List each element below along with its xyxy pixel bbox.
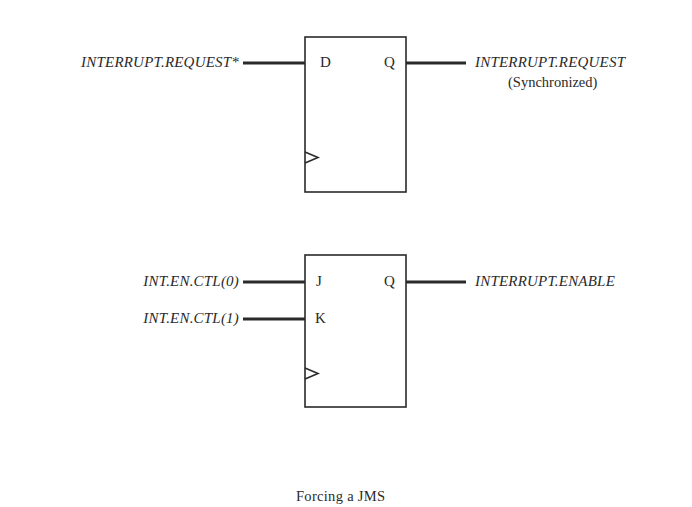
jk-q-pin-label: Q <box>384 273 395 290</box>
d-output-note: (Synchronized) <box>508 74 597 91</box>
figure-caption: Forcing a JMS <box>296 488 385 505</box>
j-pin-label: J <box>316 273 322 290</box>
d-output-signal-label: INTERRUPT.REQUEST <box>475 54 625 71</box>
d-input-signal-label: INTERRUPT.REQUEST* <box>81 54 239 71</box>
d-clock-triangle-icon <box>305 152 318 163</box>
k-pin-label: K <box>315 310 326 327</box>
k-input-signal-label: INT.EN.CTL(1) <box>143 310 239 327</box>
d-pin-label: D <box>320 54 331 71</box>
jk-output-signal-label: INTERRUPT.ENABLE <box>475 273 615 290</box>
j-input-signal-label: INT.EN.CTL(0) <box>143 273 239 290</box>
jk-clock-triangle-icon <box>305 368 318 379</box>
d-q-pin-label: Q <box>384 54 395 71</box>
